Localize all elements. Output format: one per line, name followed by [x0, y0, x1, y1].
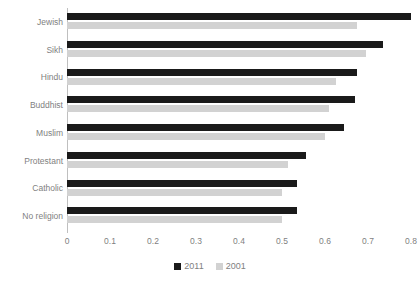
- bar-2011-sikh: [67, 41, 383, 48]
- bar-group: [67, 175, 411, 203]
- bar-group: [67, 202, 411, 230]
- bar-2001-hindu: [67, 78, 336, 85]
- bar-2001-catholic: [67, 189, 282, 196]
- bar-2001-muslim: [67, 133, 325, 140]
- bar-2001-protestant: [67, 161, 288, 168]
- bar-group: [67, 91, 411, 119]
- category-label-muslim: Muslim: [0, 128, 63, 138]
- bar-2011-hindu: [67, 69, 357, 76]
- bar-group: [67, 64, 411, 92]
- bar-2011-muslim: [67, 124, 344, 131]
- x-tick-0-4: 0.4: [233, 236, 245, 246]
- legend-label: 2001: [226, 262, 246, 271]
- category-label-no-religion: No religion: [0, 211, 63, 221]
- square-gray-swatch: [216, 263, 223, 270]
- bar-2001-sikh: [67, 50, 366, 57]
- category-label-sikh: Sikh: [0, 45, 63, 55]
- legend-item-2001[interactable]: 2001: [216, 262, 246, 271]
- bar-2011-protestant: [67, 152, 306, 159]
- x-tick-0-7: 0.7: [362, 236, 374, 246]
- bar-group: [67, 147, 411, 175]
- bar-chart: JewishSikhHinduBuddhistMuslimProtestantC…: [0, 0, 420, 285]
- x-tick-0-1: 0.1: [104, 236, 116, 246]
- plot-area: [67, 8, 411, 230]
- category-label-hindu: Hindu: [0, 72, 63, 82]
- bar-2011-no-religion: [67, 207, 297, 214]
- category-label-catholic: Catholic: [0, 183, 63, 193]
- x-tick-0-6: 0.6: [319, 236, 331, 246]
- legend-item-2011[interactable]: 2011: [174, 262, 203, 271]
- bar-2001-jewish: [67, 22, 357, 29]
- x-tick-0-3: 0.3: [190, 236, 202, 246]
- category-label-buddhist: Buddhist: [0, 100, 63, 110]
- bar-2011-buddhist: [67, 96, 355, 103]
- x-tick-0: 0: [65, 236, 70, 246]
- chart-legend: 20112001: [0, 262, 420, 271]
- category-label-jewish: Jewish: [0, 17, 63, 27]
- bar-group: [67, 119, 411, 147]
- category-label-protestant: Protestant: [0, 156, 63, 166]
- x-tick-0-5: 0.5: [276, 236, 288, 246]
- bar-group: [67, 8, 411, 36]
- x-tick-0-2: 0.2: [147, 236, 159, 246]
- bar-2011-jewish: [67, 13, 411, 20]
- x-tick-0-8: 0.8: [405, 236, 417, 246]
- bar-2001-buddhist: [67, 105, 329, 112]
- legend-label: 2011: [184, 262, 203, 271]
- square-black-swatch: [174, 263, 181, 270]
- bar-2001-no-religion: [67, 216, 282, 223]
- bar-group: [67, 36, 411, 64]
- bar-2011-catholic: [67, 180, 297, 187]
